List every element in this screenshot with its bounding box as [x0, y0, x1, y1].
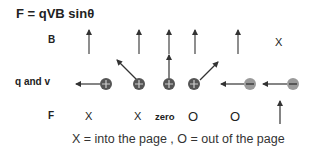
force-zero: zero — [155, 111, 175, 122]
legend-caption: X = into the page , O = out of the page — [72, 132, 285, 146]
force-out-of-page-1: O — [188, 109, 198, 124]
force-out-of-page-2: O — [230, 109, 240, 124]
positive-charge-3 — [163, 78, 175, 90]
positive-charge-1 — [100, 78, 112, 90]
positive-charge-4 — [188, 78, 200, 90]
velocity-arrow-up-left — [117, 60, 137, 80]
positive-charge-2 — [133, 78, 145, 90]
b-field-arrows — [89, 30, 238, 54]
velocity-arrow-up-right — [200, 62, 218, 80]
force-into-page-2: X — [134, 110, 141, 122]
negative-charge-2 — [287, 78, 299, 90]
force-into-page-1: X — [85, 110, 92, 122]
negative-charge-1 — [244, 78, 256, 90]
